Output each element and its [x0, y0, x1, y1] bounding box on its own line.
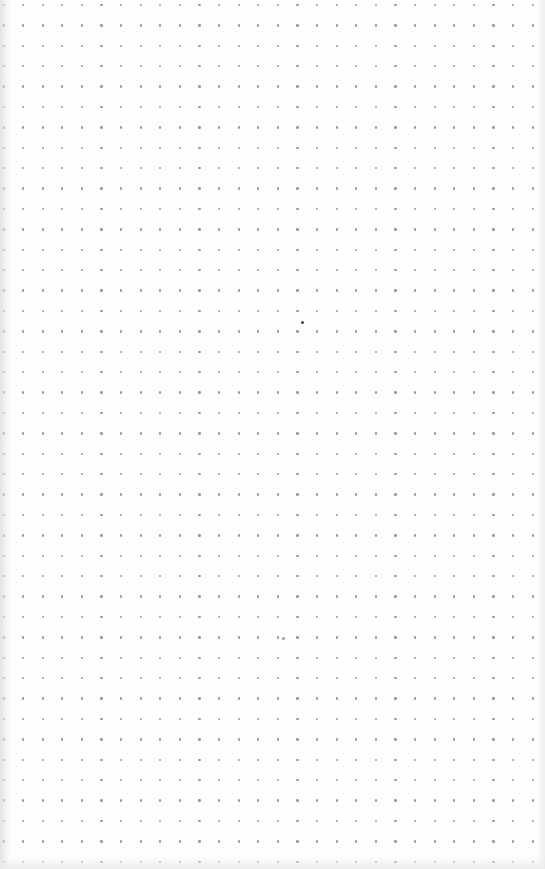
- grid-dot: [198, 228, 200, 230]
- grid-dot: [120, 65, 122, 67]
- grid-dot: [512, 208, 514, 210]
- grid-dot: [355, 636, 357, 638]
- grid-dot: [61, 453, 63, 455]
- grid-dot: [512, 616, 514, 618]
- grid-dot: [296, 371, 298, 373]
- grid-dot: [375, 840, 377, 842]
- grid-dot: [61, 759, 63, 761]
- grid-dot: [316, 840, 318, 842]
- grid-dot: [453, 351, 455, 353]
- grid-dot: [277, 351, 279, 353]
- grid-dot: [375, 208, 377, 210]
- grid-dot: [238, 371, 240, 373]
- grid-dot: [355, 147, 357, 149]
- grid-dot: [198, 697, 200, 699]
- grid-dot: [296, 4, 298, 6]
- dot-grid: [0, 0, 545, 869]
- grid-dot: [179, 840, 181, 842]
- grid-dot: [140, 310, 142, 312]
- grid-dot: [492, 24, 494, 26]
- grid-dot: [179, 126, 181, 128]
- grid-dot: [492, 187, 494, 189]
- grid-dot: [336, 4, 338, 6]
- grid-dot: [336, 473, 338, 475]
- grid-dot: [512, 351, 514, 353]
- grid-dot: [140, 616, 142, 618]
- grid-dot: [42, 4, 44, 6]
- grid-dot: [218, 269, 220, 271]
- grid-dot: [453, 677, 455, 679]
- grid-dot: [179, 677, 181, 679]
- grid-dot: [296, 249, 298, 251]
- grid-dot: [316, 820, 318, 822]
- grid-dot: [394, 534, 396, 536]
- grid-dot: [336, 147, 338, 149]
- grid-dot: [336, 616, 338, 618]
- grid-dot: [336, 493, 338, 495]
- grid-dot: [453, 779, 455, 781]
- grid-dot: [140, 595, 142, 597]
- grid-dot: [532, 779, 534, 781]
- grid-dot: [159, 595, 161, 597]
- grid-dot: [120, 330, 122, 332]
- grid-dot: [414, 351, 416, 353]
- grid-dot: [81, 45, 83, 47]
- grid-dot: [434, 453, 436, 455]
- grid-dot: [316, 493, 318, 495]
- grid-dot: [296, 636, 298, 638]
- grid-dot: [198, 575, 200, 577]
- grid-dot: [336, 432, 338, 434]
- grid-dot: [198, 371, 200, 373]
- grid-dot: [81, 126, 83, 128]
- grid-dot: [42, 799, 44, 801]
- grid-dot: [492, 514, 494, 516]
- grid-dot: [532, 391, 534, 393]
- grid-dot: [81, 759, 83, 761]
- grid-dot: [434, 738, 436, 740]
- grid-dot: [453, 85, 455, 87]
- grid-dot: [179, 167, 181, 169]
- grid-dot: [179, 371, 181, 373]
- grid-dot: [296, 514, 298, 516]
- grid-dot: [394, 65, 396, 67]
- grid-dot: [355, 759, 357, 761]
- grid-dot: [159, 636, 161, 638]
- grid-dot: [81, 636, 83, 638]
- grid-dot: [120, 534, 122, 536]
- grid-dot: [238, 575, 240, 577]
- grid-dot: [336, 228, 338, 230]
- grid-dot: [257, 595, 259, 597]
- grid-dot: [375, 167, 377, 169]
- grid-dot: [100, 555, 102, 557]
- grid-dot: [61, 616, 63, 618]
- grid-dot: [120, 289, 122, 291]
- grid-dot: [42, 147, 44, 149]
- grid-dot: [512, 65, 514, 67]
- grid-dot: [473, 432, 475, 434]
- grid-dot: [218, 453, 220, 455]
- grid-dot: [238, 534, 240, 536]
- grid-dot: [100, 514, 102, 516]
- grid-dot: [198, 657, 200, 659]
- grid-dot: [61, 187, 63, 189]
- grid-dot: [414, 187, 416, 189]
- grid-dot: [414, 391, 416, 393]
- grid-dot: [218, 534, 220, 536]
- grid-dot: [140, 779, 142, 781]
- grid-dot: [473, 718, 475, 720]
- grid-dot: [179, 555, 181, 557]
- grid-dot: [434, 514, 436, 516]
- grid-dot: [512, 555, 514, 557]
- grid-dot: [140, 738, 142, 740]
- grid-dot: [316, 759, 318, 761]
- grid-dot: [394, 167, 396, 169]
- grid-dot: [277, 126, 279, 128]
- grid-dot: [238, 65, 240, 67]
- grid-dot: [140, 187, 142, 189]
- grid-dot: [336, 65, 338, 67]
- grid-dot: [512, 412, 514, 414]
- grid-dot: [61, 269, 63, 271]
- grid-dot: [81, 269, 83, 271]
- grid-dot: [198, 820, 200, 822]
- grid-dot: [473, 657, 475, 659]
